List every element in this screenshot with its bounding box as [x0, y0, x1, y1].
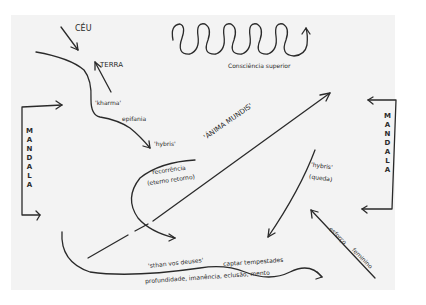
- label-mandala-left: M A N D A L A: [26, 127, 33, 190]
- mandala-right-letter: N: [385, 130, 391, 139]
- spiral-arrowhead: [302, 28, 310, 34]
- mandala-right-letter: A: [385, 166, 390, 175]
- profundidade-wave: [62, 232, 322, 277]
- label-mandala-right: M A N D A L A: [384, 112, 391, 175]
- queda-arrow: [268, 150, 315, 237]
- label-epifania: epifania: [122, 116, 146, 122]
- mandala-left-letter: A: [27, 181, 32, 190]
- mandala-right-letter: D: [385, 139, 391, 148]
- queda-arrowhead: [268, 229, 275, 237]
- mandala-left-letter: N: [27, 145, 33, 154]
- mandala-left-letter: L: [27, 172, 31, 181]
- mandala-right-letter: A: [385, 148, 390, 157]
- mandala-left-letter: A: [27, 163, 32, 172]
- mandala-right-letter: A: [385, 121, 390, 130]
- label-ceu: CÉU: [75, 25, 92, 33]
- consciousness-spiral: [172, 24, 307, 56]
- label-consciencia-superior: Consciência superior: [228, 63, 291, 69]
- label-hybris-top: 'hybris': [154, 141, 176, 147]
- mandala-left-letter: D: [27, 154, 33, 163]
- label-kharma: 'kharma': [95, 100, 121, 106]
- mandala-left-letter: M: [26, 127, 33, 136]
- label-terra: TERRA: [100, 62, 123, 69]
- mandala-right-letter: M: [384, 112, 391, 121]
- mandala-left-letter: A: [27, 136, 32, 145]
- descent-curve: [36, 52, 150, 148]
- mandala-right-letter: L: [385, 157, 389, 166]
